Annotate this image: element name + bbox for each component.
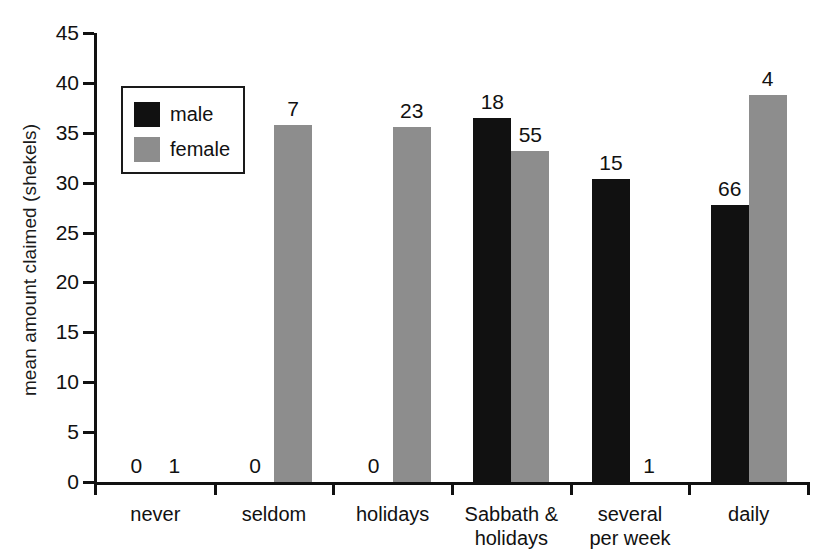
y-tick-mark [83, 431, 94, 434]
bar-slot-female: 7 [274, 33, 312, 482]
x-category-label-line: seldom [215, 503, 334, 527]
x-category-label-line: several [571, 503, 690, 527]
bar-group-bars: 151 [571, 33, 690, 482]
y-tick-mark [83, 32, 94, 35]
x-tick-mark [451, 482, 454, 495]
bar-slot-male: 18 [473, 33, 511, 482]
bar-sample-size-label: 0 [368, 455, 380, 476]
bar-sample-size-label: 15 [599, 152, 622, 173]
bar-sample-size-label: 1 [643, 455, 655, 476]
bar-slot-male: 15 [592, 33, 630, 482]
y-tick-mark [83, 481, 94, 484]
legend-swatch-male [134, 102, 160, 127]
bar-sample-size-label: 4 [762, 68, 774, 89]
x-category-label: holidays [333, 503, 452, 527]
legend-swatch-female [134, 137, 160, 162]
bar-chart-figure: mean amount claimed (shekels) 0510152025… [0, 0, 838, 559]
legend-box: malefemale [121, 86, 245, 174]
bar-group-bars: 664 [689, 33, 808, 482]
x-category-label-line: holidays [333, 503, 452, 527]
y-tick-mark [83, 232, 94, 235]
x-category-label-line: holidays [452, 527, 571, 551]
bar-slot-female: 1 [630, 33, 668, 482]
y-tick-label: 40 [56, 70, 79, 94]
bar-sample-size-label: 1 [168, 455, 180, 476]
x-category-label: Sabbath &holidays [452, 503, 571, 550]
y-tick-mark [83, 182, 94, 185]
bar-female [393, 127, 431, 482]
y-tick-label: 0 [67, 470, 79, 494]
y-tick-label: 10 [56, 370, 79, 394]
x-category-label: daily [689, 503, 808, 527]
bar-group: 023 [333, 33, 452, 482]
y-tick-label: 30 [56, 170, 79, 194]
x-category-label: severalper week [571, 503, 690, 550]
y-tick-mark [83, 381, 94, 384]
bar-slot-male: 66 [711, 33, 749, 482]
bar-group-bars: 023 [333, 33, 452, 482]
legend-entry-male: male [134, 97, 243, 132]
x-category-label-line: daily [689, 503, 808, 527]
x-tick-mark [688, 482, 691, 495]
bar-male [711, 205, 749, 482]
bar-male [473, 118, 511, 482]
bar-slot-female: 23 [393, 33, 431, 482]
y-tick-label: 15 [56, 320, 79, 344]
bar-sample-size-label: 23 [400, 100, 423, 121]
legend-entry-female: female [134, 132, 243, 167]
y-tick-mark [83, 132, 94, 135]
y-tick-label: 5 [67, 420, 79, 444]
y-tick-mark [83, 82, 94, 85]
x-tick-mark [214, 482, 217, 495]
bar-group: 1855 [452, 33, 571, 482]
y-tick-label: 25 [56, 220, 79, 244]
x-tick-mark [570, 482, 573, 495]
x-axis-end-tick [94, 482, 97, 495]
y-tick-mark [83, 281, 94, 284]
bar-group: 664 [689, 33, 808, 482]
x-category-label-line: per week [571, 527, 690, 551]
x-category-label-line: Sabbath & [452, 503, 571, 527]
bar-sample-size-label: 66 [718, 178, 741, 199]
y-tick-mark [83, 331, 94, 334]
bar-female [274, 125, 312, 482]
bar-sample-size-label: 55 [519, 124, 542, 145]
bar-slot-female: 55 [511, 33, 549, 482]
bar-male [592, 179, 630, 482]
bar-female [749, 95, 787, 482]
legend-label-male: male [170, 103, 213, 126]
y-tick-label: 45 [56, 21, 79, 45]
x-tick-mark [332, 482, 335, 495]
x-category-label-line: never [96, 503, 215, 527]
bar-sample-size-label: 18 [481, 91, 504, 112]
bar-group-bars: 1855 [452, 33, 571, 482]
y-tick-label: 20 [56, 270, 79, 294]
x-category-label: seldom [215, 503, 334, 527]
y-axis-title-text: mean amount claimed (shekels) [19, 124, 41, 396]
bar-sample-size-label: 7 [287, 98, 299, 119]
x-category-label: never [96, 503, 215, 527]
y-tick-label: 35 [56, 120, 79, 144]
bar-sample-size-label: 0 [130, 455, 142, 476]
bar-group: 151 [571, 33, 690, 482]
legend-label-female: female [170, 138, 230, 161]
bar-female [511, 151, 549, 482]
x-axis-end-tick [807, 482, 810, 495]
y-axis-title: mean amount claimed (shekels) [10, 0, 50, 520]
bar-slot-male: 0 [355, 33, 393, 482]
bar-sample-size-label: 0 [249, 455, 261, 476]
bar-slot-female: 4 [749, 33, 787, 482]
